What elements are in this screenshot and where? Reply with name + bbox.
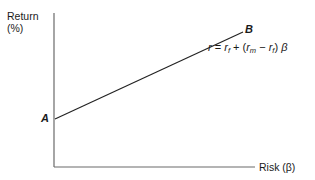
point-b-label: B <box>245 23 253 35</box>
point-a-label: A <box>41 112 49 124</box>
eq-minus: − <box>256 41 269 53</box>
eq-equals: = <box>212 41 225 53</box>
y-axis-label-line-1: Return <box>7 10 39 22</box>
y-axis-label: Return (%) <box>7 10 39 34</box>
eq-plus: + ( <box>230 41 246 53</box>
y-axis-label-line-2: (%) <box>7 22 39 34</box>
sml-equation: r = rf + (rm − rf) β <box>208 41 287 55</box>
x-axis-label: Risk (β) <box>259 161 295 173</box>
eq-beta: β <box>278 41 287 53</box>
chart-canvas <box>0 0 315 180</box>
chart-figure: Return (%) Risk (β) A B r = rf + (rm − r… <box>0 0 315 180</box>
